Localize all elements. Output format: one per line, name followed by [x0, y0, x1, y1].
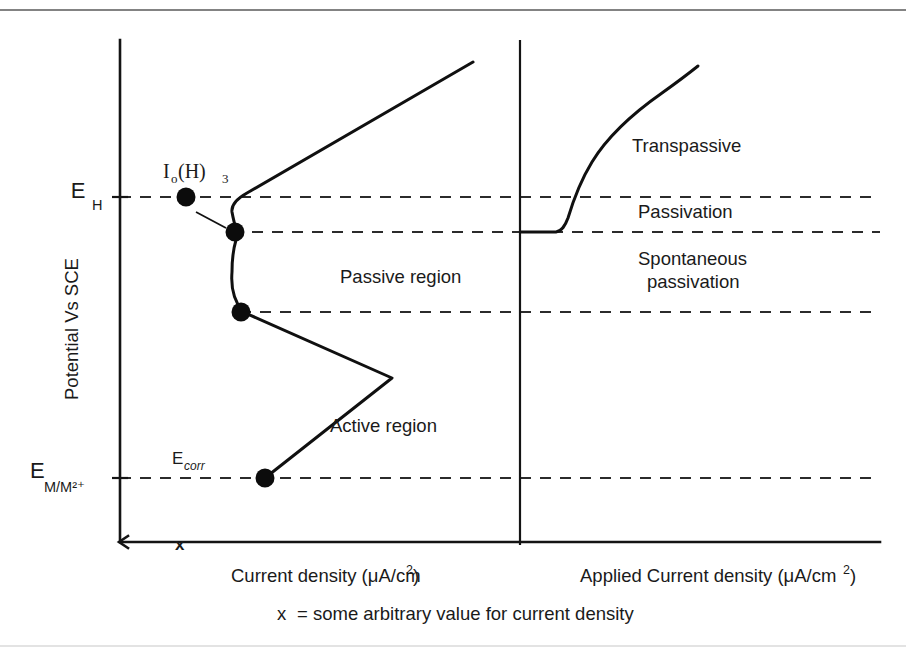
y-axis-label: Potential Vs SCE	[61, 258, 82, 400]
region-label-spontaneous-line2: passivation	[647, 271, 740, 292]
footnote-text: = some arbitrary value for current densi…	[297, 603, 634, 624]
potential-label-eh: E H	[71, 178, 103, 213]
io-h3-leader-line	[196, 212, 226, 228]
region-label-passivation: Passivation	[638, 201, 733, 222]
footnote: x = some arbitrary value for current den…	[277, 603, 634, 624]
left-x-axis-caption-end: )	[413, 565, 419, 586]
region-label-spontaneous-line1: Spontaneous	[638, 248, 747, 269]
x-axis-tick-marker: x	[175, 535, 185, 554]
marker-io-h3	[177, 188, 196, 207]
annotation-ecorr-sub: corr	[184, 459, 206, 473]
marker-passivation-potential	[232, 303, 251, 322]
left-x-axis-caption-sup: 2	[406, 563, 413, 577]
marker-ecorr	[256, 469, 275, 488]
right-x-axis-caption-end: )	[850, 565, 856, 586]
left-x-axis-caption-text: Current density (μA/cm	[231, 565, 421, 586]
potential-label-emm-sub: M/M²⁺	[44, 479, 85, 495]
potential-label-emm: E M/M²⁺	[30, 458, 85, 495]
annotation-ecorr: E corr	[172, 449, 206, 473]
annotation-io-h3-main: I	[163, 160, 170, 182]
left-x-axis-caption: Current density (μA/cm 2 )	[231, 563, 421, 586]
potential-label-eh-main: E	[71, 178, 86, 203]
right-x-axis-caption-text: Applied Current density (μA/cm	[580, 565, 836, 586]
region-label-passive: Passive region	[340, 266, 461, 287]
right-x-axis-caption: Applied Current density (μA/cm 2 )	[580, 563, 856, 586]
annotation-io-h3: I o (H) 3	[163, 160, 229, 186]
annotation-ecorr-main: E	[172, 449, 183, 468]
region-label-transpassive: Transpassive	[632, 135, 741, 156]
region-label-active: Active region	[330, 415, 437, 436]
annotation-io-h3-sub-o: o	[171, 171, 178, 186]
footnote-marker: x	[277, 603, 287, 624]
potential-label-emm-main: E	[30, 458, 45, 483]
figure-root: Potential Vs SCE E H E M/M²⁺ I o (H) 3 E…	[0, 0, 906, 652]
potential-label-eh-sub: H	[92, 197, 102, 213]
annotation-io-h3-sub-3: 3	[222, 171, 229, 186]
annotation-io-h3-mid: (H)	[178, 160, 206, 183]
marker-passivation-onset	[226, 223, 245, 242]
right-x-axis-caption-sup: 2	[843, 563, 850, 577]
polarization-diagram: Potential Vs SCE E H E M/M²⁺ I o (H) 3 E…	[0, 0, 906, 652]
